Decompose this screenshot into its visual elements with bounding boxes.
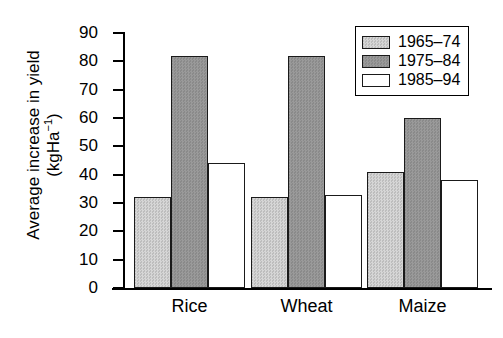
legend-item-1975–84[interactable]: 1975–84 — [362, 52, 460, 70]
y-axis-unit-exponent: −1 — [42, 119, 54, 132]
legend-label-1965–74: 1965–74 — [398, 34, 460, 50]
y-axis-tick — [113, 60, 124, 62]
x-axis-line — [112, 288, 492, 290]
y-axis-title-line1: Average increase in yield — [24, 5, 44, 285]
y-axis-tick-label: 90 — [68, 24, 98, 41]
bar-wheat-1965–74 — [251, 197, 288, 288]
bar-rice-1965–74 — [134, 197, 171, 288]
legend-item-1965–74[interactable]: 1965–74 — [362, 33, 460, 51]
y-axis-tick-label: 0 — [68, 279, 98, 296]
y-axis-tick-label: 40 — [68, 166, 98, 183]
y-axis-tick-label: 70 — [68, 81, 98, 98]
x-axis-label-maize: Maize — [367, 296, 478, 316]
legend-swatch-1975–84 — [362, 55, 390, 68]
y-axis-tick — [113, 230, 124, 232]
bar-maize-1985–94 — [441, 180, 478, 288]
y-axis-tick — [113, 174, 124, 176]
legend: 1965–741975–841985–94 — [355, 26, 469, 96]
legend-label-1975–84: 1975–84 — [398, 53, 460, 69]
y-axis-tick-label: 30 — [68, 194, 98, 211]
y-axis-tick-labels: 9080706050403020100 — [58, 0, 98, 338]
bar-maize-1975–84 — [404, 118, 441, 288]
y-axis-tick — [113, 202, 124, 204]
x-axis-label-rice: Rice — [134, 296, 245, 316]
bar-wheat-1975–84 — [288, 56, 325, 288]
bar-rice-1975–84 — [171, 56, 208, 288]
y-axis-tick — [113, 287, 124, 289]
legend-swatch-1985–94 — [362, 74, 390, 87]
y-axis-tick-label: 60 — [68, 109, 98, 126]
legend-swatch-1965–74 — [362, 36, 390, 49]
y-axis-tick-label: 10 — [68, 251, 98, 268]
bar-maize-1965–74 — [367, 172, 404, 288]
y-axis-tick — [113, 145, 124, 147]
y-axis-tick-label: 50 — [68, 137, 98, 154]
legend-label-1985–94: 1985–94 — [398, 72, 460, 88]
y-axis-tick-label: 20 — [68, 222, 98, 239]
y-axis-tick — [113, 89, 124, 91]
y-axis-tick — [113, 259, 124, 261]
bar-rice-1985–94 — [208, 163, 245, 288]
x-axis-label-wheat: Wheat — [251, 296, 362, 316]
bar-chart-figure: Average increase in yield (kgHa−1) 90807… — [0, 0, 503, 338]
y-axis-tick — [113, 117, 124, 119]
legend-item-1985–94[interactable]: 1985–94 — [362, 71, 460, 89]
y-axis-tick-label: 80 — [68, 52, 98, 69]
y-axis-tick — [113, 32, 124, 34]
bar-wheat-1985–94 — [325, 195, 362, 289]
